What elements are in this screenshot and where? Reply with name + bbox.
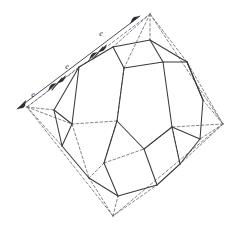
solid-outline-lower-left-b [62,146,89,178]
solid-center-square-d [163,62,172,127]
apex-right-inner [172,124,223,127]
solid-top-square-b [124,62,163,68]
solid-outline-top-b [113,40,150,47]
hidden-center-diag-e [89,163,104,178]
solid-top-square-a [113,47,124,68]
apex-right-to-sq-a [187,62,223,124]
apex-right-to-sq-d [180,124,223,164]
hidden-inner-edges [72,68,180,178]
solid-hex-lower-right-b [172,127,180,164]
dimension-arrow-start [17,100,26,109]
solid-outline-top-c [150,40,187,62]
solid-outline-top-a [79,47,113,67]
apex-left-to-sq-c [27,107,62,146]
frame-edge-top-left [27,14,150,107]
solid-outline-bottom [118,185,157,196]
hidden-center-diag-c [72,124,89,178]
frame-edge-bottom-right [113,124,223,216]
geometry-figure: e e e [0,0,233,226]
hidden-center-lower [104,149,144,163]
solid-center-square-c [144,127,172,149]
solid-outline-lower-right-b [157,164,180,185]
solid-hex-left-c [62,124,72,146]
solid-hex-right-a [187,62,203,100]
apex-left-lines [27,67,79,146]
apex-bottom-lines [89,178,157,216]
solid-outline-upper-left [54,67,79,110]
dimension-label-top: e [99,29,103,38]
polyhedron-diagram: e e e [0,0,233,226]
solid-hex-lower-right-c [172,127,200,139]
apex-bottom-to-sq-a [89,178,113,216]
dimension-label-bottom: e [31,90,35,99]
solid-hex-left-a [72,67,79,124]
apex-right-to-sq-c [200,124,223,139]
solid-center-square-b [117,121,144,149]
frame-edge-top-right [150,14,223,124]
solid-outline-right [200,100,203,139]
solid-center-square-a [117,68,124,121]
solid-hex-lower-left-a [104,121,117,163]
dimension-label-middle: e [65,62,69,71]
apex-left-to-sq-a [27,107,54,110]
apex-right-to-sq-b [203,100,223,124]
solid-hex-lower-right-a [144,149,157,185]
hidden-center-diag-b [72,121,117,124]
solid-outline-lower-right-a [180,139,200,164]
truncated-octahedron-solid [54,40,203,196]
apex-top-to-sq-a [113,14,150,47]
apex-top-to-sq-d [150,14,187,62]
apex-bottom-to-sq-c [113,185,157,216]
